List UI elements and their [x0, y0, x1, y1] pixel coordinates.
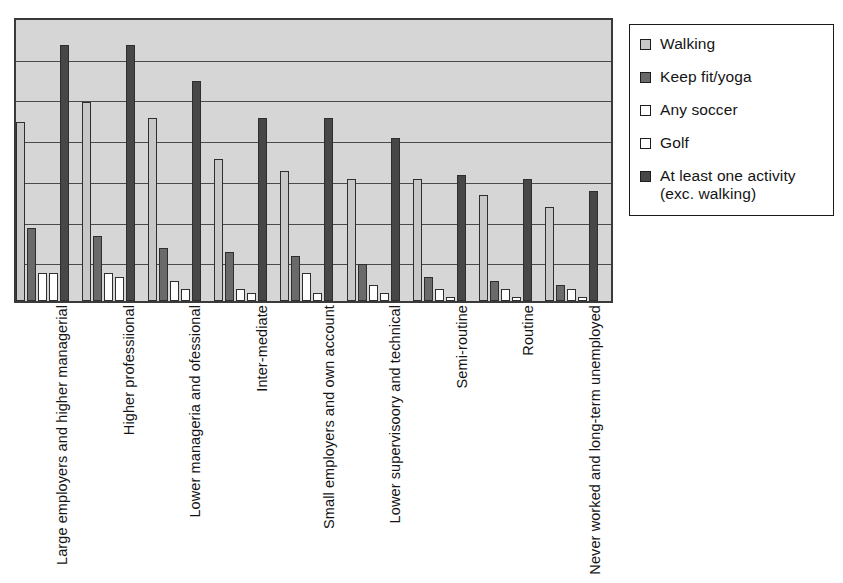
bar [435, 289, 444, 301]
bar-groups [16, 20, 611, 301]
bar [159, 248, 168, 301]
bar-group [16, 20, 82, 301]
bar-group [479, 20, 545, 301]
bar [60, 45, 69, 302]
bar [545, 207, 554, 301]
legend-item-label: Keep fit/yoga [660, 68, 752, 86]
bar [313, 293, 322, 301]
bar [247, 293, 256, 301]
bar [589, 191, 598, 301]
x-axis-label: Never worked and long-term unemployed [587, 305, 604, 575]
bar [104, 273, 113, 302]
x-axis-label: Lower supervisoory and technical [387, 305, 404, 575]
x-axis-label: Higher professiional [121, 305, 138, 575]
bar [236, 289, 245, 301]
bar [358, 264, 367, 301]
x-axis-label: Lower manageria and ofessional [187, 305, 204, 575]
bar [556, 285, 565, 301]
bar [148, 118, 157, 301]
bar [380, 293, 389, 301]
bar-group [214, 20, 280, 301]
bar-group [280, 20, 346, 301]
bar [523, 179, 532, 301]
legend-item-label: Walking [660, 35, 715, 53]
bar [391, 138, 400, 301]
bar [225, 252, 234, 301]
legend-item-label: Any soccer [660, 101, 738, 119]
plot-area [14, 18, 613, 303]
legend-item-label: At least one activity (exc. walking) [660, 167, 825, 203]
bar [214, 159, 223, 302]
bar [16, 122, 25, 301]
bar [501, 289, 510, 301]
bar [291, 256, 300, 301]
legend-item[interactable]: Keep fit/yoga [640, 68, 825, 86]
x-axis-label: Routine [520, 305, 537, 575]
legend-item-label: Golf [660, 134, 689, 152]
bar [578, 297, 587, 301]
bar [324, 118, 333, 301]
x-axis-label: Semi-routine [454, 305, 471, 575]
x-axis-labels: Large employers and higher managerialHig… [14, 305, 613, 577]
legend-item[interactable]: At least one activity (exc. walking) [640, 167, 825, 203]
bar [258, 118, 267, 301]
bar-group [413, 20, 479, 301]
bar [93, 236, 102, 301]
bar [27, 228, 36, 301]
bar [82, 102, 91, 302]
bar-group [545, 20, 611, 301]
bar [567, 289, 576, 301]
bar-group [148, 20, 214, 301]
bar [512, 297, 521, 301]
legend-item[interactable]: Any soccer [640, 101, 825, 119]
x-axis-label: Small employers and own account [321, 305, 338, 575]
legend-swatch-soccer-icon [640, 105, 651, 116]
bar [457, 175, 466, 301]
legend-swatch-keepfit-icon [640, 72, 651, 83]
bar [302, 273, 311, 302]
bar [446, 297, 455, 301]
bar [347, 179, 356, 301]
x-axis-label: Inter-mediate [254, 305, 271, 575]
bar [126, 45, 135, 302]
bar [49, 273, 58, 302]
bar [192, 81, 201, 301]
bar [490, 281, 499, 301]
bar [115, 277, 124, 301]
bar-group [82, 20, 148, 301]
bar [38, 273, 47, 302]
bar [170, 281, 179, 301]
bar [369, 285, 378, 301]
legend-item[interactable]: Golf [640, 134, 825, 152]
bar [413, 179, 422, 301]
chart-legend: WalkingKeep fit/yogaAny soccerGolfAt lea… [629, 24, 834, 216]
bar [181, 289, 190, 301]
bar [479, 195, 488, 301]
legend-swatch-atleastone-icon [640, 171, 651, 182]
bar [280, 171, 289, 301]
legend-swatch-golf-icon [640, 138, 651, 149]
bar-group [347, 20, 413, 301]
legend-item[interactable]: Walking [640, 35, 825, 53]
chart-root: Large employers and higher managerialHig… [0, 0, 843, 583]
x-axis-label: Large employers and higher managerial [54, 305, 71, 575]
legend-swatch-walking-icon [640, 39, 651, 50]
bar [424, 277, 433, 301]
